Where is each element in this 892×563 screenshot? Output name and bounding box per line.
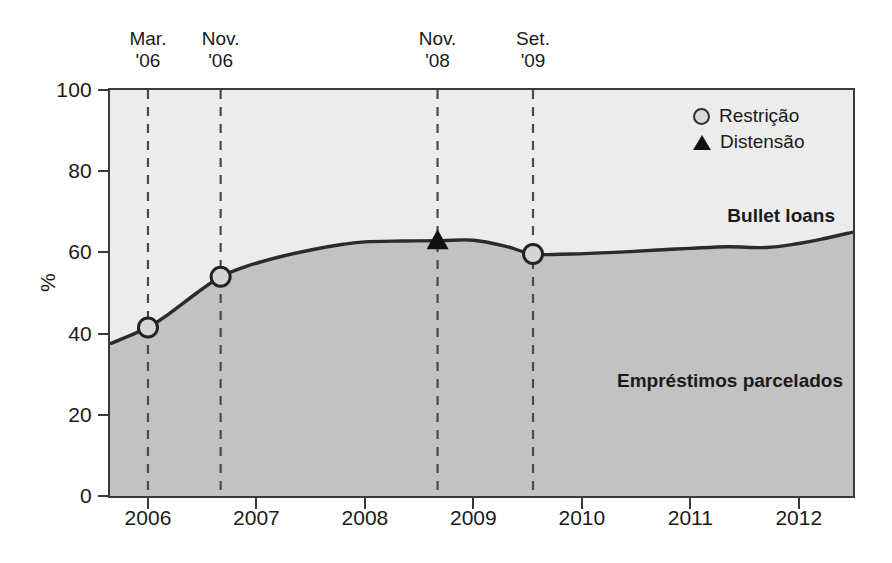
x-tick-mark [798, 498, 800, 509]
legend-label-distensao: Distensão [720, 131, 805, 153]
x-tick-mark [364, 498, 366, 509]
y-tick-mark [98, 251, 108, 253]
x-tick-label: 2012 [775, 506, 822, 530]
chart-container: % 020406080100 2006200720082009201020112… [0, 0, 892, 563]
y-tick-label: 20 [22, 403, 92, 427]
x-tick-label: 2008 [342, 506, 389, 530]
event-month: Nov. [419, 28, 457, 50]
triangle-marker-icon [693, 135, 711, 150]
y-tick-mark [98, 333, 108, 335]
x-tick-mark [255, 498, 257, 509]
event-year: '06 [202, 50, 240, 72]
y-tick-label: 40 [22, 322, 92, 346]
y-tick-mark [98, 495, 108, 497]
event-date-label: Set.'09 [516, 28, 550, 73]
y-axis-title: % [36, 273, 60, 292]
x-tick-label: 2009 [450, 506, 497, 530]
legend-label-restricao: Restrição [719, 105, 799, 127]
legend: Restrição Distensão [693, 103, 805, 155]
x-tick-label: 2007 [233, 506, 280, 530]
event-month: Nov. [202, 28, 240, 50]
x-tick-mark [689, 498, 691, 509]
y-tick-label: 0 [22, 484, 92, 508]
y-tick-label: 80 [22, 159, 92, 183]
legend-item-distensao: Distensão [693, 129, 805, 155]
event-month: Mar. [129, 28, 166, 50]
x-tick-mark [472, 498, 474, 509]
y-tick-mark [98, 89, 108, 91]
area-label-emprestimos-parcelados: Empréstimos parcelados [617, 370, 843, 392]
event-year: '08 [419, 50, 457, 72]
event-year: '06 [129, 50, 166, 72]
event-date-label: Mar.'06 [129, 28, 166, 73]
x-tick-label: 2006 [125, 506, 172, 530]
event-year: '09 [516, 50, 550, 72]
event-date-label: Nov.'08 [419, 28, 457, 73]
area-label-bullet-loans: Bullet loans [727, 205, 835, 227]
y-tick-mark [98, 414, 108, 416]
event-date-label: Nov.'06 [202, 28, 240, 73]
x-tick-mark [581, 498, 583, 509]
y-tick-label: 100 [22, 78, 92, 102]
y-tick-mark [98, 170, 108, 172]
legend-item-restricao: Restrição [693, 103, 805, 129]
x-tick-mark [147, 498, 149, 509]
event-month: Set. [516, 28, 550, 50]
x-tick-label: 2010 [558, 506, 605, 530]
circle-marker-icon [693, 108, 710, 125]
y-tick-label: 60 [22, 240, 92, 264]
x-tick-label: 2011 [668, 506, 713, 530]
